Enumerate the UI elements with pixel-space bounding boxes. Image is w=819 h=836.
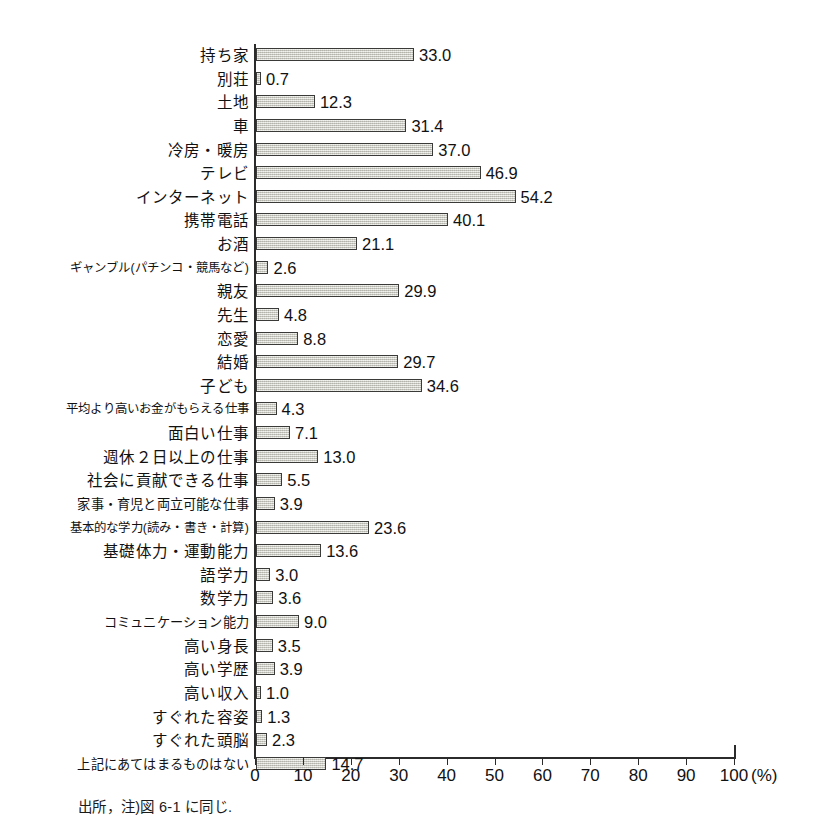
bar-row: 高い収入1.0 — [0, 682, 819, 706]
bar-category-label: コミュニケーション能力 — [104, 611, 249, 635]
bar — [256, 639, 273, 652]
bar-row: 基本的な学力(読み・書き・計算)23.6 — [0, 517, 819, 541]
bar-value-label: 13.6 — [326, 540, 358, 564]
bar — [256, 379, 422, 392]
bar — [256, 757, 326, 770]
bar — [256, 591, 273, 604]
bar-row: 面白い仕事7.1 — [0, 422, 819, 446]
x-axis-tick — [638, 757, 639, 765]
bar-category-label: 数学力 — [200, 587, 249, 611]
bar — [256, 355, 398, 368]
bar — [256, 568, 270, 581]
x-axis-tick-label: 50 — [485, 766, 504, 786]
bar — [256, 473, 282, 486]
bar-row: 語学力3.0 — [0, 564, 819, 588]
bar-value-label: 2.3 — [272, 729, 295, 753]
bar — [256, 237, 357, 250]
bar-row: 高い学歴3.9 — [0, 658, 819, 682]
bar-row: 先生4.8 — [0, 304, 819, 328]
bar-row: 親友29.9 — [0, 280, 819, 304]
bar — [256, 710, 262, 723]
bar-row: 上記にあてはまるものはない14.7 — [0, 753, 819, 777]
bar-row: 家事・育児と両立可能な仕事3.9 — [0, 493, 819, 517]
bar — [256, 497, 275, 510]
bar-value-label: 9.0 — [304, 611, 327, 635]
bar-value-label: 13.0 — [323, 446, 355, 470]
bar-category-label: 基本的な学力(読み・書き・計算) — [70, 517, 249, 541]
bar-category-label: 持ち家 — [200, 44, 249, 68]
bar-category-label: ギャンブル(パチンコ・競馬など) — [70, 257, 249, 281]
bar — [256, 213, 448, 226]
x-axis-tick — [542, 757, 543, 765]
bar-value-label: 4.8 — [284, 304, 307, 328]
x-axis-tick-label: 10 — [293, 766, 312, 786]
bar-category-label: 携帯電話 — [184, 209, 249, 233]
x-axis-tick-label: 40 — [437, 766, 456, 786]
x-axis-unit-label: (%) — [751, 766, 777, 786]
bar-value-label: 3.9 — [280, 493, 303, 517]
figure-footnote: 出所，注)図 6-1 に同じ. — [78, 797, 232, 817]
bar-category-label: 高い身長 — [184, 635, 249, 659]
bar-value-label: 8.8 — [303, 328, 326, 352]
bar-category-label: お酒 — [217, 233, 249, 257]
bar-row: 高い身長3.5 — [0, 635, 819, 659]
bar-value-label: 5.5 — [287, 469, 310, 493]
bar-value-label: 3.5 — [278, 635, 301, 659]
bar — [256, 733, 267, 746]
bar-value-label: 2.6 — [273, 257, 296, 281]
bar-row: 社会に貢献できる仕事5.5 — [0, 469, 819, 493]
bar-row: 別荘0.7 — [0, 68, 819, 92]
x-axis-tick-label: 0 — [250, 766, 259, 786]
bar — [256, 143, 433, 156]
bar — [256, 686, 261, 699]
bar — [256, 284, 399, 297]
bar-row: 冷房・暖房37.0 — [0, 139, 819, 163]
bar — [256, 72, 261, 85]
bar-row: 携帯電話40.1 — [0, 209, 819, 233]
x-axis-tick — [303, 757, 304, 765]
bar-value-label: 29.9 — [404, 280, 436, 304]
x-axis-tick-label: 100 — [720, 766, 748, 786]
bar-row: インターネット54.2 — [0, 186, 819, 210]
bar-value-label: 29.7 — [403, 351, 435, 375]
bar-category-label: 週休２日以上の仕事 — [103, 446, 249, 470]
bar-category-label: 結婚 — [217, 351, 249, 375]
bar-category-label: 基礎体力・運動能力 — [103, 540, 249, 564]
bar-row: すぐれた頭脳2.3 — [0, 729, 819, 753]
bar-category-label: 別荘 — [217, 68, 249, 92]
bar — [256, 166, 481, 179]
bar-category-label: 面白い仕事 — [168, 422, 249, 446]
bar-value-label: 0.7 — [266, 68, 289, 92]
x-axis-tick — [447, 757, 448, 765]
bar-row: 持ち家33.0 — [0, 44, 819, 68]
bar — [256, 119, 406, 132]
bar-category-label: 親友 — [217, 280, 249, 304]
bar-value-label: 40.1 — [453, 209, 485, 233]
bar — [256, 521, 369, 534]
bar-category-label: 家事・育児と両立可能な仕事 — [77, 493, 249, 517]
bar-value-label: 37.0 — [438, 139, 470, 163]
x-axis-tick — [686, 757, 687, 765]
bar-value-label: 21.1 — [362, 233, 394, 257]
bar-row: コミュニケーション能力9.0 — [0, 611, 819, 635]
bar-category-label: 子ども — [200, 375, 249, 399]
bar-category-label: 車 — [233, 115, 249, 139]
x-axis-tick-label: 80 — [629, 766, 648, 786]
bar-value-label: 34.6 — [427, 375, 459, 399]
bar-value-label: 46.9 — [486, 162, 518, 186]
bar-row: 平均より高いお金がもらえる仕事4.3 — [0, 398, 819, 422]
bar — [256, 48, 414, 61]
bar-category-label: テレビ — [200, 162, 249, 186]
x-axis-tick-label: 20 — [341, 766, 360, 786]
bar-row: テレビ46.9 — [0, 162, 819, 186]
x-axis-tick — [495, 757, 496, 765]
bar — [256, 261, 268, 274]
bar-value-label: 3.6 — [278, 587, 301, 611]
bar-category-label: 平均より高いお金がもらえる仕事 — [66, 398, 249, 422]
bar-row: 恋愛8.8 — [0, 328, 819, 352]
x-axis-tick — [399, 757, 400, 765]
bar-category-label: すぐれた頭脳 — [152, 729, 249, 753]
bar — [256, 544, 321, 557]
bar-value-label: 33.0 — [419, 44, 451, 68]
bar-row: 土地12.3 — [0, 91, 819, 115]
